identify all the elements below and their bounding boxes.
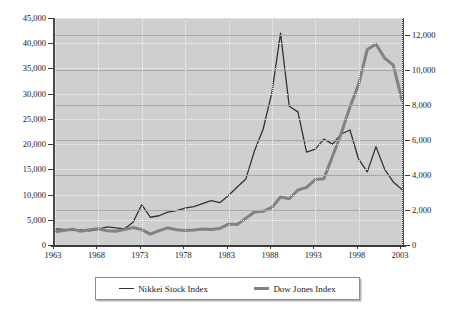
y-left-tick-label: 25,000: [23, 115, 46, 124]
gridline-x-1973: [142, 18, 143, 245]
y-right-tick-label: 0: [412, 241, 416, 250]
x-tick-label: 1998: [348, 251, 365, 260]
x-tick-mark: [400, 245, 401, 249]
y-left-tick-mark: [48, 195, 53, 196]
x-tick-mark: [270, 245, 271, 249]
y-left-tick-mark: [48, 144, 53, 145]
x-tick-mark: [183, 245, 184, 249]
y-right-tick-mark: [405, 105, 410, 106]
x-tick-mark: [140, 245, 141, 249]
y-right-tick-label: 12,000: [412, 31, 435, 40]
y-right-tick-label: 8,000: [412, 101, 431, 110]
legend-swatch-dow-icon: [254, 287, 269, 290]
y-left-tick-mark: [48, 94, 53, 95]
x-tick-mark: [227, 245, 228, 249]
x-tick-mark: [357, 245, 358, 249]
y-right-tick-mark: [405, 140, 410, 141]
x-tick-label: 1978: [175, 251, 192, 260]
gridline-x-1978: [185, 18, 186, 245]
y-left-tick-label: 30,000: [23, 89, 46, 98]
legend-item-dow: Dow Jones Index: [254, 284, 336, 294]
x-tick-label: 1963: [45, 251, 62, 260]
x-tick-mark: [313, 245, 314, 249]
y-right-tick-label: 4,000: [412, 171, 431, 180]
y-right-tick-mark: [405, 35, 410, 36]
gridline-x-1998: [359, 18, 360, 245]
y-right-tick-mark: [405, 245, 410, 246]
y-left-tick-label: 15,000: [23, 165, 46, 174]
legend-swatch-nikkei-icon: [119, 288, 134, 290]
x-tick-label: 1973: [131, 251, 148, 260]
chart-legend: Nikkei Stock Index Dow Jones Index: [95, 277, 360, 300]
y-right-tick-mark: [405, 210, 410, 211]
y-left-tick-mark: [48, 220, 53, 221]
y-left-tick-label: 20,000: [23, 140, 46, 149]
y-left-tick-mark: [48, 68, 53, 69]
x-tick-mark: [96, 245, 97, 249]
y-left-tick-mark: [48, 18, 53, 19]
gridline-x-1963: [55, 18, 56, 245]
gridline-x-1988: [272, 18, 273, 245]
y-left-tick-mark: [48, 43, 53, 44]
chart-container: 05,00010,00015,00020,00025,00030,00035,0…: [0, 0, 453, 309]
y-left-tick-label: 45,000: [23, 14, 46, 23]
x-tick-label: 1968: [88, 251, 105, 260]
y-left-tick-label: 5,000: [27, 216, 46, 225]
x-tick-label: 1993: [305, 251, 322, 260]
gridline-x-2003: [402, 18, 403, 245]
legend-item-nikkei: Nikkei Stock Index: [119, 284, 208, 294]
legend-label-dow: Dow Jones Index: [273, 284, 336, 294]
y-right-tick-label: 10,000: [412, 66, 435, 75]
y-right-tick-label: 2,000: [412, 206, 431, 215]
x-axis-line: [51, 245, 406, 247]
legend-label-nikkei: Nikkei Stock Index: [138, 284, 208, 294]
y-left-tick-mark: [48, 169, 53, 170]
y-right-tick-mark: [405, 70, 410, 71]
y-left-tick-label: 35,000: [23, 64, 46, 73]
y-left-tick-label: 40,000: [23, 39, 46, 48]
x-tick-label: 2003: [392, 251, 409, 260]
y-left-tick-label: 0: [42, 241, 46, 250]
plot-area: [53, 18, 404, 245]
gridline-x-1993: [315, 18, 316, 245]
x-tick-label: 1988: [261, 251, 278, 260]
y-right-tick-mark: [405, 175, 410, 176]
gridline-x-1983: [229, 18, 230, 245]
x-tick-mark: [53, 245, 54, 249]
gridline-x-1968: [98, 18, 99, 245]
y-left-tick-mark: [48, 119, 53, 120]
x-tick-label: 1983: [218, 251, 235, 260]
y-left-tick-label: 10,000: [23, 190, 46, 199]
y-right-tick-label: 6,000: [412, 136, 431, 145]
